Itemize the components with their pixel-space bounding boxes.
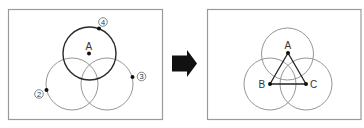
arrow-shape xyxy=(172,50,197,77)
right-frame xyxy=(208,10,362,120)
right-point-a xyxy=(286,51,290,55)
marker-4-text: 4 xyxy=(101,18,105,27)
right-panel: A B C xyxy=(208,10,362,120)
left-point-2 xyxy=(45,88,49,92)
left-frame xyxy=(9,10,163,120)
left-panel: A 4 2 3 xyxy=(9,10,163,120)
marker-4: 4 xyxy=(99,18,108,27)
left-point-3 xyxy=(131,75,135,79)
marker-2-text: 2 xyxy=(37,90,41,99)
right-arrow-icon xyxy=(172,50,197,77)
left-point-4 xyxy=(97,27,101,31)
construction-diagram: A 4 2 3 A xyxy=(0,0,364,128)
right-label-a: A xyxy=(285,40,292,51)
right-point-b xyxy=(268,82,272,86)
marker-2: 2 xyxy=(35,90,44,99)
right-point-c xyxy=(304,82,308,86)
marker-3-text: 3 xyxy=(139,72,143,81)
left-label-a: A xyxy=(86,41,93,52)
right-label-b: B xyxy=(259,79,266,90)
left-point-a xyxy=(87,52,91,56)
right-label-c: C xyxy=(310,79,317,90)
marker-3: 3 xyxy=(137,72,146,81)
